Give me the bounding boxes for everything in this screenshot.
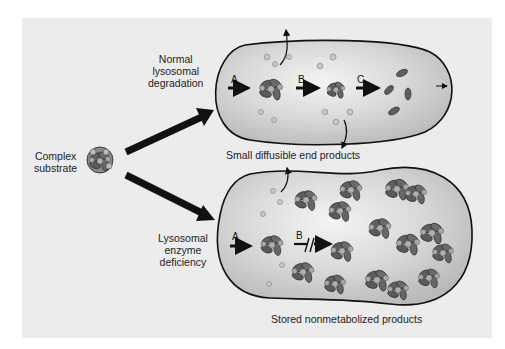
step-a-bottom: A bbox=[232, 231, 239, 242]
normal-degradation-label: Normal lysosomal degradation bbox=[148, 53, 203, 89]
complex-substrate-icon bbox=[87, 147, 113, 173]
small-products-label: Small diffusible end products bbox=[226, 149, 360, 161]
stored-products-label: Stored nonmetabolized products bbox=[271, 313, 422, 325]
enzyme-deficiency-label: Lysosomal enzyme deficiency bbox=[158, 232, 208, 268]
step-a-top: A bbox=[231, 74, 238, 85]
diagram-canvas bbox=[0, 0, 505, 349]
normal-lysosome bbox=[216, 30, 452, 148]
step-b-bottom: B bbox=[296, 230, 303, 241]
step-b-top: B bbox=[298, 74, 305, 85]
deficient-lysosome bbox=[217, 168, 472, 305]
arrow-to-deficiency-icon bbox=[126, 175, 206, 215]
arrow-to-normal-icon bbox=[126, 115, 206, 152]
complex-substrate-label: Complex substrate bbox=[34, 150, 77, 174]
step-c-top: C bbox=[357, 74, 364, 85]
